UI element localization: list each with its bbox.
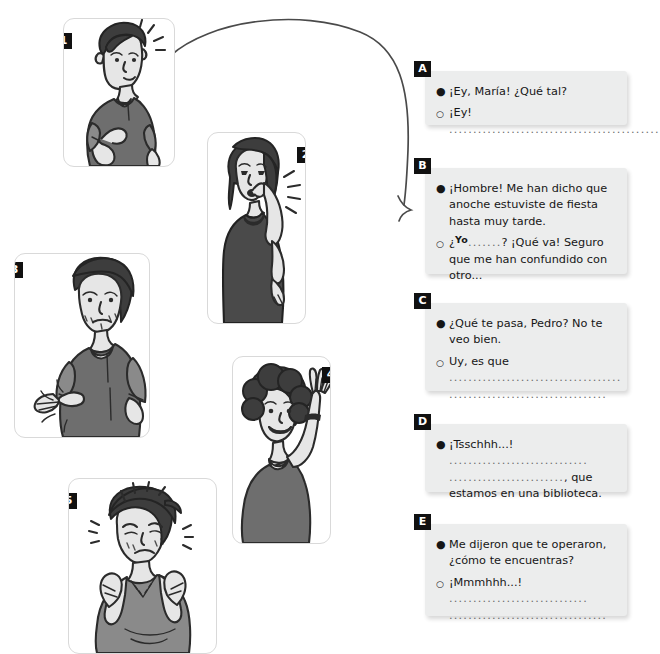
blank-fill-dots[interactable]: ....... bbox=[468, 236, 502, 249]
bullet-hollow-icon: ○ bbox=[436, 106, 444, 122]
blank-fill-dots[interactable]: ................................. bbox=[449, 388, 607, 401]
panel-5-number: 5 bbox=[68, 493, 77, 509]
dialogue-line: ○ Uy, es que ...........................… bbox=[449, 354, 615, 403]
bullet-filled-icon: ● bbox=[436, 84, 446, 100]
bullet-filled-icon: ● bbox=[436, 181, 446, 197]
dialogue-text: ¡Ey! bbox=[449, 106, 472, 119]
dialogue-box-d: D ● ¡Tsschhh...! .......................… bbox=[425, 424, 627, 492]
illustration-panel-1: 1 bbox=[63, 18, 175, 167]
dialogue-line: ● ¿Qué te pasa, Pedro? No te veo bien. bbox=[449, 316, 615, 349]
dialogue-text: ¡Ey, María! ¿Qué tal? bbox=[449, 85, 567, 98]
dialogue-line: ○ ¡Mmmhhh...! ..........................… bbox=[449, 575, 615, 624]
panel-3-art bbox=[15, 254, 149, 437]
dialogue-line: ● ¡Tsschhh...! .........................… bbox=[449, 437, 615, 503]
illustration-panel-3: 3 bbox=[14, 253, 150, 438]
dialogue-box-a: A ● ¡Ey, María! ¿Qué tal? ○ ¡Ey! .......… bbox=[425, 71, 627, 125]
dialogue-box-e: E ● Me dijeron que te operaron, ¿cómo te… bbox=[425, 524, 627, 616]
panel-1-number: 1 bbox=[63, 33, 72, 49]
bullet-hollow-icon: ○ bbox=[436, 236, 444, 252]
dialogue-text: ¿Qué te pasa, Pedro? No te veo bien. bbox=[449, 317, 602, 346]
dialogue-badge-b: B bbox=[414, 158, 431, 174]
dialogue-text: ¡Mmmhhh...! bbox=[449, 576, 522, 589]
blank-fill-dots[interactable]: ............................. bbox=[449, 454, 588, 467]
panel-3-number: 3 bbox=[14, 262, 23, 278]
bullet-filled-icon: ● bbox=[436, 316, 446, 332]
blank-fill-dots[interactable]: ................................. bbox=[449, 609, 607, 622]
dialogue-text: ¡Tsschhh...! bbox=[449, 438, 513, 451]
dialogue-box-b: B ● ¡Hombre! Me han dicho que anoche est… bbox=[425, 168, 627, 274]
dialogue-badge-c: C bbox=[414, 293, 431, 309]
dialogue-badge-e: E bbox=[414, 514, 431, 530]
dialogue-text: Me dijeron que te operaron, ¿cómo te enc… bbox=[449, 538, 606, 567]
dialogue-line: ○ ¡Ey! .................................… bbox=[449, 105, 615, 138]
panel-2-number: 2 bbox=[297, 147, 306, 163]
blank-fill-dots[interactable]: ............................. bbox=[449, 592, 588, 605]
panel-4-art bbox=[233, 357, 330, 543]
bullet-filled-icon: ● bbox=[436, 537, 446, 553]
dialogue-line: ● ¡Ey, María! ¿Qué tal? bbox=[449, 84, 615, 100]
dialogue-badge-a: A bbox=[414, 61, 431, 77]
bullet-filled-icon: ● bbox=[436, 437, 446, 453]
panel-1-art bbox=[64, 19, 174, 166]
blank-fill-dots[interactable]: .................................... bbox=[449, 371, 621, 384]
panel-5-art bbox=[69, 479, 216, 653]
blank-fill-dots[interactable]: ........................................… bbox=[449, 123, 660, 136]
handwritten-answer[interactable]: Yo bbox=[455, 234, 468, 245]
bullet-hollow-icon: ○ bbox=[436, 355, 444, 371]
illustration-panel-5: 5 bbox=[68, 478, 217, 654]
panel-2-art bbox=[208, 133, 305, 323]
panel-4-number: 4 bbox=[322, 367, 331, 383]
dialogue-text: ¡Hombre! Me han dicho que anoche estuvis… bbox=[449, 182, 607, 228]
dialogue-line: ● Me dijeron que te operaron, ¿cómo te e… bbox=[449, 537, 615, 570]
dialogue-line: ● ¡Hombre! Me han dicho que anoche estuv… bbox=[449, 181, 615, 230]
bullet-hollow-icon: ○ bbox=[436, 576, 444, 592]
dialogue-badge-d: D bbox=[414, 414, 431, 430]
illustration-panel-2: 2 bbox=[207, 132, 306, 324]
dialogue-box-c: C ● ¿Qué te pasa, Pedro? No te veo bien.… bbox=[425, 303, 627, 391]
illustration-panel-4: 4 bbox=[232, 356, 331, 544]
blank-fill-dots[interactable]: ........................ bbox=[449, 471, 564, 484]
dialogue-text: Uy, es que bbox=[449, 355, 509, 368]
dialogue-line: ○ ¿Yo.......? ¡Qué va! Seguro que me han… bbox=[449, 235, 615, 284]
